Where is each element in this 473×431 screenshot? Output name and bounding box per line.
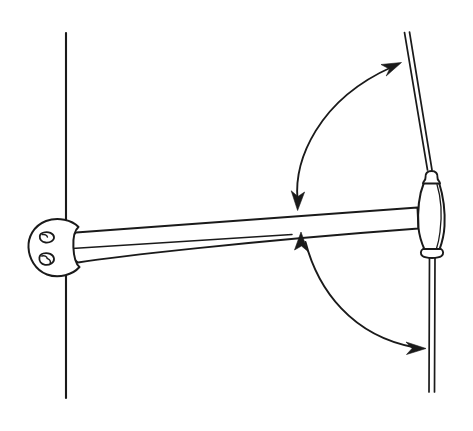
wand-top-knob xyxy=(423,171,440,184)
upper-rod-edge-left xyxy=(405,33,428,171)
diagram-canvas xyxy=(0,0,473,431)
lower-rod-edge-right xyxy=(435,256,436,392)
wall-mount-bracket-plate xyxy=(28,219,79,276)
lower-rod-edge-left xyxy=(429,256,430,392)
bracket-plate-outline xyxy=(28,219,79,276)
lower-rotation-arrow xyxy=(295,232,427,355)
tapered-support-arm xyxy=(71,208,418,263)
upper-tilt-rod xyxy=(405,32,433,170)
upper-arrow-arc xyxy=(297,67,392,200)
upper-rod-edge-right xyxy=(410,32,433,170)
lower-arrow-head-right xyxy=(406,342,426,355)
support-arm-body xyxy=(71,208,418,263)
upper-arrow-head-up xyxy=(381,63,402,77)
upper-rotation-arrow xyxy=(291,63,401,211)
wand-handle-body xyxy=(418,171,444,258)
lower-tilt-rod xyxy=(429,256,435,392)
lower-arrow-arc xyxy=(306,242,416,348)
blind-wand-bracket-illustration xyxy=(0,0,473,431)
wand-bottom-knob xyxy=(421,249,443,258)
screw-hole-lower xyxy=(39,253,54,265)
